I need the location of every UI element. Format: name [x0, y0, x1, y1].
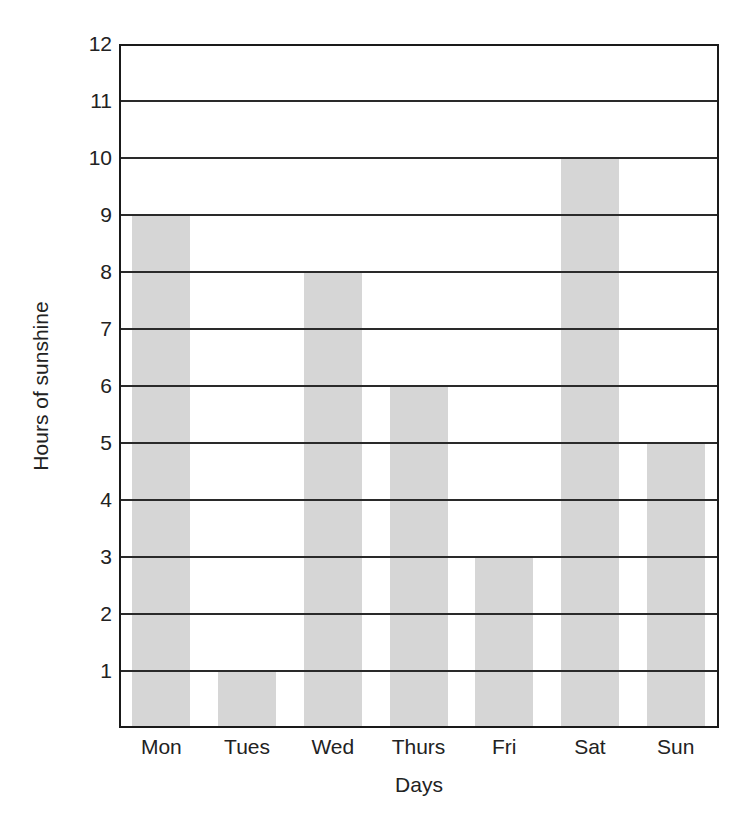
- y-tick-label: 4: [72, 488, 112, 512]
- y-tick-label: 9: [72, 203, 112, 227]
- y-tick-label: 8: [72, 260, 112, 284]
- y-tick-label: 11: [72, 89, 112, 113]
- bar-chart: MonTuesWedThursFriSatSun123456789101112: [0, 0, 743, 818]
- x-tick-label: Sun: [631, 734, 721, 760]
- y-tick-label: 3: [72, 545, 112, 569]
- x-tick-label: Wed: [288, 734, 378, 760]
- y-axis-title: Hours of sunshine: [28, 301, 54, 470]
- y-tick-label: 12: [72, 32, 112, 56]
- x-tick-label: Fri: [459, 734, 549, 760]
- y-tick-label: 1: [72, 659, 112, 683]
- plot-frame: [119, 44, 719, 728]
- x-tick-label: Sat: [545, 734, 635, 760]
- x-tick-label: Mon: [116, 734, 206, 760]
- y-tick-label: 7: [72, 317, 112, 341]
- x-axis-title: Days: [369, 772, 469, 798]
- y-tick-label: 5: [72, 431, 112, 455]
- y-tick-label: 6: [72, 374, 112, 398]
- x-tick-label: Tues: [202, 734, 292, 760]
- y-tick-label: 2: [72, 602, 112, 626]
- y-tick-label: 10: [72, 146, 112, 170]
- x-tick-label: Thurs: [374, 734, 464, 760]
